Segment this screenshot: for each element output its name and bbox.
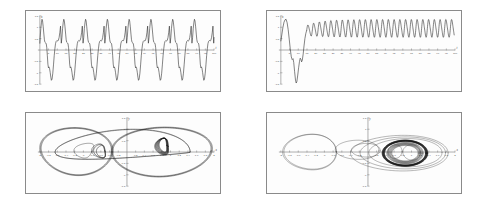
- svg-text:-0.6: -0.6: [340, 153, 345, 157]
- svg-text:0.2: 0.2: [134, 153, 138, 157]
- panel-bottom-right: -2-1.8-1.6-1.4-1.2-1-0.8-0.6-0.4-0.20.20…: [266, 112, 462, 194]
- svg-text:1.4: 1.4: [186, 153, 190, 157]
- svg-text:y: y: [127, 117, 130, 121]
- svg-text:30: 30: [332, 51, 335, 55]
- svg-text:25: 25: [82, 51, 85, 55]
- svg-text:1.5: 1.5: [35, 14, 39, 18]
- svg-text:-1.2: -1.2: [313, 153, 318, 157]
- svg-text:50: 50: [367, 51, 370, 55]
- svg-text:100: 100: [453, 51, 458, 55]
- svg-text:-0.2: -0.2: [357, 153, 362, 157]
- svg-text:-1.5: -1.5: [121, 184, 126, 188]
- svg-text:t: t: [457, 46, 458, 50]
- svg-text:1.5: 1.5: [363, 116, 367, 120]
- panel-bottom-left: -2-1.8-1.6-1.4-1.2-1-0.8-0.6-0.4-0.20.20…: [25, 112, 221, 194]
- svg-text:-1.6: -1.6: [55, 153, 60, 157]
- svg-text:-0.5: -0.5: [121, 161, 126, 165]
- svg-text:-1.4: -1.4: [305, 153, 310, 157]
- svg-text:100: 100: [212, 51, 217, 55]
- svg-text:0.5: 0.5: [122, 139, 126, 143]
- svg-text:1.5: 1.5: [122, 116, 126, 120]
- svg-text:10: 10: [297, 51, 300, 55]
- svg-text:2: 2: [213, 153, 215, 157]
- svg-text:0.5: 0.5: [35, 37, 39, 41]
- svg-text:-0.6: -0.6: [99, 153, 104, 157]
- svg-text:0.4: 0.4: [143, 153, 147, 157]
- svg-text:1.8: 1.8: [204, 153, 208, 157]
- svg-text:35: 35: [340, 51, 343, 55]
- svg-text:60: 60: [143, 51, 146, 55]
- svg-text:-2: -2: [280, 153, 283, 157]
- svg-text:30: 30: [91, 51, 94, 55]
- plot-bottom-right: -2-1.8-1.6-1.4-1.2-1-0.8-0.6-0.4-0.20.20…: [267, 113, 461, 193]
- axes-bottom-left: -2-1.8-1.6-1.4-1.2-1-0.8-0.6-0.4-0.20.20…: [38, 116, 218, 188]
- svg-text:75: 75: [169, 51, 172, 55]
- svg-text:-1.5: -1.5: [362, 184, 367, 188]
- svg-text:x: x: [456, 148, 459, 152]
- panel-top-right: 5101520253035404550556065707580859095100…: [266, 10, 462, 92]
- svg-text:20: 20: [314, 51, 317, 55]
- svg-text:70: 70: [401, 51, 404, 55]
- orbit-segment: [403, 145, 420, 160]
- svg-text:-0.5: -0.5: [362, 161, 367, 165]
- svg-text:-1.8: -1.8: [287, 153, 292, 157]
- svg-text:1.6: 1.6: [195, 153, 199, 157]
- svg-text:x: x: [281, 15, 284, 19]
- four-panel-figure: 5101520253035404550556065707580859095100…: [0, 0, 488, 208]
- svg-text:75: 75: [410, 51, 413, 55]
- panel-top-left: 5101520253035404550556065707580859095100…: [25, 10, 221, 92]
- svg-text:-1: -1: [123, 173, 126, 177]
- svg-text:1.5: 1.5: [276, 14, 280, 18]
- svg-text:1: 1: [278, 25, 280, 29]
- svg-text:1: 1: [365, 127, 367, 131]
- svg-text:-1.5: -1.5: [34, 82, 39, 86]
- svg-text:80: 80: [419, 51, 422, 55]
- svg-text:-1: -1: [36, 71, 39, 75]
- svg-text:90: 90: [436, 51, 439, 55]
- svg-text:-1.8: -1.8: [46, 153, 51, 157]
- svg-text:45: 45: [358, 51, 361, 55]
- svg-text:5: 5: [48, 51, 50, 55]
- svg-text:-0.8: -0.8: [331, 153, 336, 157]
- svg-text:x: x: [215, 148, 218, 152]
- svg-text:85: 85: [186, 51, 189, 55]
- svg-text:-1: -1: [277, 71, 280, 75]
- svg-text:80: 80: [178, 51, 181, 55]
- svg-text:85: 85: [427, 51, 430, 55]
- plot-top-right: 5101520253035404550556065707580859095100…: [267, 11, 461, 91]
- svg-text:-1.4: -1.4: [64, 153, 69, 157]
- svg-text:-1.6: -1.6: [296, 153, 301, 157]
- svg-text:-0.5: -0.5: [275, 59, 280, 63]
- axes-top-left: 5101520253035404550556065707580859095100…: [34, 14, 217, 86]
- svg-text:0.5: 0.5: [276, 37, 280, 41]
- svg-text:40: 40: [349, 51, 352, 55]
- svg-text:-1: -1: [82, 153, 85, 157]
- axes-bottom-right: -2-1.8-1.6-1.4-1.2-1-0.8-0.6-0.4-0.20.20…: [279, 116, 459, 188]
- svg-text:-1: -1: [323, 153, 326, 157]
- svg-text:90: 90: [195, 51, 198, 55]
- svg-text:65: 65: [152, 51, 155, 55]
- plot-bottom-left: -2-1.8-1.6-1.4-1.2-1-0.8-0.6-0.4-0.20.20…: [26, 113, 220, 193]
- svg-text:15: 15: [65, 51, 68, 55]
- svg-text:10: 10: [56, 51, 59, 55]
- svg-text:35: 35: [99, 51, 102, 55]
- svg-text:x: x: [40, 15, 43, 19]
- svg-text:15: 15: [306, 51, 309, 55]
- svg-text:1: 1: [411, 153, 413, 157]
- svg-text:1.6: 1.6: [436, 153, 440, 157]
- svg-text:55: 55: [134, 51, 137, 55]
- svg-text:-0.2: -0.2: [116, 153, 121, 157]
- svg-text:y: y: [368, 117, 371, 121]
- svg-text:-1.5: -1.5: [275, 82, 280, 86]
- svg-text:-0.5: -0.5: [34, 59, 39, 63]
- svg-text:55: 55: [375, 51, 378, 55]
- svg-text:50: 50: [126, 51, 129, 55]
- plot-top-left: 5101520253035404550556065707580859095100…: [26, 11, 220, 91]
- svg-text:60: 60: [384, 51, 387, 55]
- svg-text:-1: -1: [364, 173, 367, 177]
- svg-text:1: 1: [37, 25, 39, 29]
- svg-text:t: t: [216, 46, 217, 50]
- svg-text:2: 2: [454, 153, 456, 157]
- svg-text:25: 25: [323, 51, 326, 55]
- svg-text:65: 65: [393, 51, 396, 55]
